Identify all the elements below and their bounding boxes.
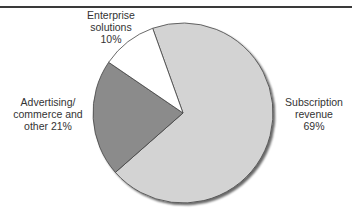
label-advertising-commerce: Advertising/ commerce and other 21% xyxy=(8,96,88,132)
label-subscription-revenue: Subscription revenue 69% xyxy=(276,96,352,132)
label-enterprise-solutions: Enterprise solutions 10% xyxy=(76,9,146,45)
